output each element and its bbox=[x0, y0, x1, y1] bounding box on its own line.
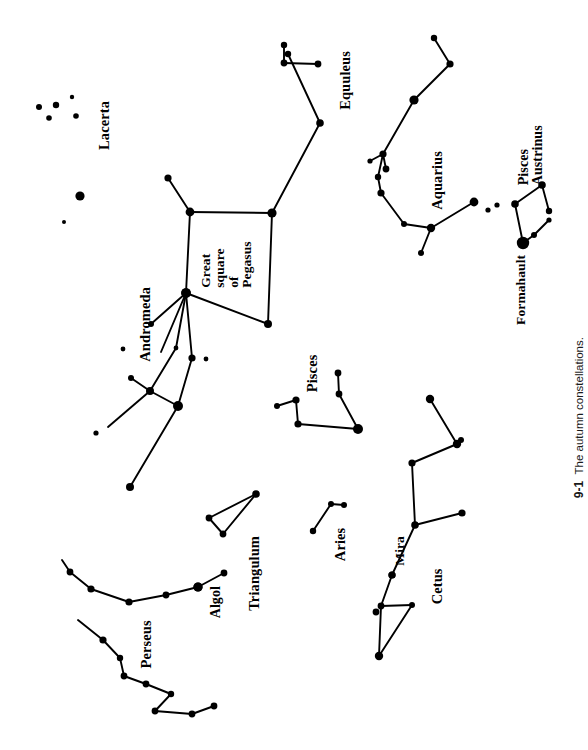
star-marker bbox=[46, 115, 52, 121]
star-marker bbox=[274, 403, 280, 409]
star-marker bbox=[174, 346, 179, 351]
figure-caption-spacer bbox=[573, 474, 585, 480]
star-marker bbox=[164, 174, 171, 181]
star-marker bbox=[173, 401, 183, 411]
star-marker bbox=[193, 582, 202, 591]
constellation-label-aries: Aries bbox=[333, 527, 348, 561]
constellation-label-cetus: Cetus bbox=[430, 568, 445, 604]
star-marker bbox=[152, 708, 159, 715]
star-marker bbox=[36, 104, 42, 110]
constellation-label-pisces-austrinus: Pisces Austrinus bbox=[517, 125, 546, 185]
star-marker bbox=[418, 250, 424, 256]
star-marker bbox=[281, 42, 287, 48]
star-marker bbox=[310, 528, 316, 534]
star-marker bbox=[264, 320, 272, 328]
star-marker bbox=[292, 396, 299, 403]
constellation-label-pisces: Pisces bbox=[305, 354, 320, 392]
star-marker bbox=[121, 347, 126, 352]
star-marker bbox=[75, 191, 84, 200]
constellation-label-pegasus: Great square of Pegasus bbox=[199, 241, 254, 287]
star-marker bbox=[143, 681, 150, 688]
constellation-label-triangulum: Triangulum bbox=[247, 535, 262, 610]
star-marker bbox=[401, 221, 407, 227]
star-marker bbox=[189, 711, 196, 718]
figure-caption-number: 9-1 bbox=[572, 481, 586, 498]
star-marker bbox=[62, 220, 66, 224]
star-marker bbox=[315, 61, 322, 68]
star-marker bbox=[99, 636, 106, 643]
star-marker bbox=[294, 420, 301, 427]
star-marker bbox=[446, 60, 453, 67]
star-marker bbox=[431, 35, 437, 41]
star-marker bbox=[188, 354, 195, 361]
constellation-line bbox=[190, 212, 272, 213]
figure-caption-text: The autumn constellations. bbox=[573, 337, 585, 474]
constellation-label-formahault: Formahault bbox=[514, 255, 528, 325]
star-marker bbox=[117, 655, 123, 661]
star-marker bbox=[186, 208, 195, 217]
star-marker bbox=[267, 208, 276, 217]
star-marker bbox=[426, 395, 434, 403]
star-marker bbox=[168, 691, 174, 697]
constellation-label-lacerta: Lacerta bbox=[97, 100, 112, 149]
star-marker bbox=[70, 95, 74, 99]
constellation-stars-algol bbox=[193, 582, 202, 591]
star-marker bbox=[377, 189, 384, 196]
star-marker bbox=[409, 602, 415, 608]
star-marker bbox=[388, 571, 395, 578]
star-marker bbox=[409, 95, 418, 104]
star-marker bbox=[181, 288, 191, 298]
star-marker bbox=[328, 501, 334, 507]
star-marker bbox=[163, 592, 170, 599]
star-marker bbox=[206, 515, 213, 522]
star-marker bbox=[204, 357, 209, 362]
star-marker bbox=[531, 232, 537, 238]
star-marker bbox=[375, 174, 381, 180]
star-marker bbox=[128, 375, 134, 381]
star-marker bbox=[73, 113, 79, 119]
star-marker bbox=[375, 652, 383, 660]
constellation-line bbox=[381, 605, 412, 606]
star-marker bbox=[470, 198, 479, 207]
star-marker bbox=[211, 703, 218, 710]
star-marker bbox=[93, 430, 98, 435]
figure-caption: 9-1 The autumn constellations. bbox=[560, 301, 588, 511]
star-marker bbox=[336, 391, 343, 398]
star-marker bbox=[221, 570, 228, 577]
constellation-label-andromeda: Andromeda bbox=[137, 287, 152, 362]
star-marker bbox=[383, 166, 390, 173]
constellation-label-perseus: Perseus bbox=[139, 620, 154, 668]
star-marker bbox=[125, 598, 132, 605]
star-marker bbox=[546, 217, 551, 222]
star-marker bbox=[379, 150, 386, 157]
star-marker bbox=[121, 673, 128, 680]
constellation-label-aquarius: Aquarius bbox=[430, 150, 445, 209]
star-marker bbox=[281, 60, 288, 67]
constellation-label-mira: Mira bbox=[393, 536, 407, 566]
star-marker bbox=[53, 102, 59, 108]
star-marker bbox=[378, 603, 385, 610]
star-marker bbox=[316, 119, 324, 127]
star-marker bbox=[458, 437, 464, 443]
star-marker bbox=[373, 609, 380, 616]
star-marker bbox=[285, 51, 291, 57]
star-marker bbox=[517, 237, 529, 249]
star-marker bbox=[367, 158, 372, 163]
star-marker bbox=[511, 200, 519, 208]
constellation-label-equuleus: Equuleus bbox=[338, 50, 353, 109]
star-marker bbox=[408, 459, 415, 466]
star-marker bbox=[220, 531, 227, 538]
star-marker bbox=[126, 483, 134, 491]
star-marker bbox=[335, 370, 342, 377]
star-marker bbox=[494, 202, 499, 207]
star-marker bbox=[146, 387, 154, 395]
constellation-line bbox=[284, 63, 318, 64]
star-marker bbox=[341, 502, 347, 508]
star-marker bbox=[546, 208, 552, 214]
star-marker bbox=[485, 207, 490, 212]
constellation-label-algol: Algol bbox=[209, 586, 223, 618]
star-marker bbox=[67, 569, 74, 576]
